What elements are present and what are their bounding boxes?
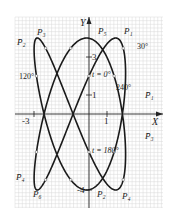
y-tick-minus4: -4 [77,186,85,195]
point-P1bar: P̄₁ [145,91,154,100]
label-t180: t = 180° [92,147,119,155]
x-tick-minus3: -3 [22,117,30,126]
point-P4bar: P̄₄ [16,173,25,182]
label-30deg: 30° [137,43,148,51]
y-tick-1: 1 [92,91,97,100]
point-P2bar: P̄₂ [17,38,26,47]
label-t0: t = 0° [92,71,111,79]
point-P6: P₆ [33,190,42,199]
y-axis-label: Y [80,18,86,28]
point-P5: P₅ [98,27,107,36]
point-P3: P₃ [37,28,46,37]
point-P1: P₁ [124,27,133,36]
plot-canvas [0,0,171,220]
x-tick-1: 1 [104,117,109,126]
x-axis-label: X [152,117,158,127]
lissajous-figure: Y X -3 1 3 1 -4 t = 0° t = 180° 30° 120°… [0,0,171,220]
point-P3bar: P̄₃ [145,132,154,141]
label-240deg: 240° [116,84,131,92]
label-120deg: 120° [19,73,34,81]
point-P2: P₂ [97,190,106,199]
y-tick-3: 3 [92,53,97,62]
point-P4: P₄ [122,192,131,201]
